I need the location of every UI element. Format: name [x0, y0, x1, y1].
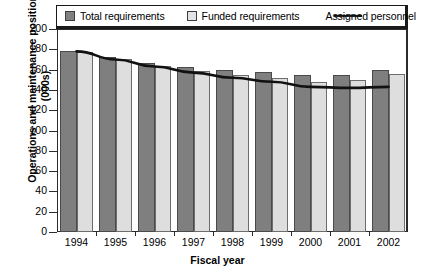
- chart-legend: Total requirements Funded requirements A…: [56, 5, 408, 29]
- bar-group: [174, 29, 213, 232]
- bar-total-requirements: [60, 51, 77, 232]
- y-axis-tick-mark: [49, 49, 57, 50]
- bar-group: [369, 29, 408, 232]
- bar-total-requirements: [255, 72, 272, 232]
- y-axis-tick-label: 80: [7, 144, 47, 156]
- legend-line-marker-assigned-personnel: [334, 15, 362, 17]
- legend-label-funded-requirements: Funded requirements: [202, 10, 300, 22]
- bar-total-requirements: [99, 57, 116, 232]
- bar-funded-requirements: [77, 52, 94, 232]
- bar-total-requirements: [177, 67, 194, 232]
- y-axis-tick-label: 140: [7, 83, 47, 95]
- bar-group: [96, 29, 135, 232]
- bar-group: [57, 29, 96, 232]
- bar-group: [135, 29, 174, 232]
- bar-funded-requirements: [194, 71, 211, 232]
- bar-total-requirements: [333, 75, 350, 232]
- y-axis-tick-mark: [49, 151, 57, 152]
- y-axis-tick-mark: [49, 70, 57, 71]
- legend-label-total-requirements: Total requirements: [80, 10, 165, 22]
- y-axis-tick-label: 160: [7, 63, 47, 75]
- bars-layer: [57, 29, 408, 232]
- bar-total-requirements: [138, 63, 155, 233]
- y-axis-tick-label: 20: [7, 205, 47, 217]
- y-axis-tick-label: 60: [7, 164, 47, 176]
- y-axis-tick-label: 0: [7, 225, 47, 237]
- bar-funded-requirements: [116, 59, 133, 232]
- legend-item-total-requirements: Total requirements: [65, 10, 165, 22]
- x-axis-tick-label: 2002: [366, 236, 412, 248]
- y-axis-tick-label: 40: [7, 184, 47, 196]
- bar-group: [330, 29, 369, 232]
- legend-item-assigned-personnel: Assigned personnel: [326, 10, 416, 22]
- bar-funded-requirements: [272, 78, 289, 232]
- legend-item-funded-requirements: Funded requirements: [187, 10, 300, 22]
- bar-group: [252, 29, 291, 232]
- y-axis-tick-mark: [49, 232, 57, 233]
- legend-swatch-funded-requirements: [187, 11, 197, 21]
- bar-total-requirements: [372, 70, 389, 232]
- legend-swatch-total-requirements: [65, 11, 75, 21]
- y-axis-tick-label: 100: [7, 124, 47, 136]
- y-axis-tick-label: 200: [7, 22, 47, 34]
- chart-container: Total requirements Funded requirements A…: [0, 0, 435, 274]
- y-axis-tick-label: 120: [7, 103, 47, 115]
- y-axis-tick-mark: [49, 29, 57, 30]
- bar-funded-requirements: [350, 80, 367, 232]
- y-axis-tick-mark: [49, 191, 57, 192]
- bar-funded-requirements: [233, 75, 250, 232]
- y-axis-tick-mark: [49, 171, 57, 172]
- bar-group: [213, 29, 252, 232]
- y-axis-tick-mark: [49, 212, 57, 213]
- y-axis-tick-mark: [49, 131, 57, 132]
- y-axis-tick-mark: [49, 110, 57, 111]
- bar-funded-requirements: [155, 66, 172, 232]
- x-axis-title: Fiscal year: [0, 254, 435, 266]
- y-axis-tick-mark: [49, 90, 57, 91]
- bar-group: [291, 29, 330, 232]
- y-axis-tick-label: 180: [7, 42, 47, 54]
- bar-funded-requirements: [311, 82, 328, 232]
- bar-funded-requirements: [389, 74, 406, 232]
- bar-total-requirements: [294, 75, 311, 232]
- bar-total-requirements: [216, 70, 233, 232]
